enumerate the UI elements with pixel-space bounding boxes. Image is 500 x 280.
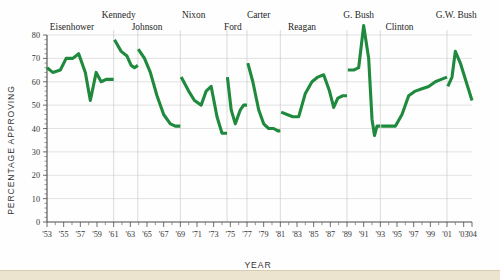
y-tick-label-50: 50 [32,101,40,110]
president-label-g-bush: G. Bush [343,10,374,20]
x-tick-label-1995: '95 [392,230,402,239]
approval-line-eisenhower [47,54,114,101]
x-tick-label-1953: '53 [42,230,52,239]
x-tick-label-1977: '77 [242,230,252,239]
x-tick-label-1999: '99 [425,230,435,239]
president-label-johnson: Johnson [132,22,163,32]
x-tick-label-2004: '04 [467,230,477,239]
x-tick-label-1973: '73 [209,230,219,239]
president-label-kennedy: Kennedy [102,10,136,20]
approval-line-carter [248,63,280,131]
x-tick-label-1991: '91 [359,230,369,239]
x-tick-label-1989: '89 [342,230,352,239]
x-tick-label-1985: '85 [309,230,319,239]
x-tick-label-1959: '59 [92,230,102,239]
president-label-carter: Carter [247,10,271,20]
x-tick-label-1975: '75 [225,230,235,239]
y-tick-label-10: 10 [32,195,40,204]
y-axis: 01020304050607080 [32,31,47,227]
x-axis-title: YEAR [244,260,271,270]
y-tick-label-0: 0 [36,218,40,227]
x-tick-label-1961: '61 [109,230,119,239]
x-axis: '53'55'57'59'61'63'65'67'69'71'73'75'77'… [42,222,477,239]
president-label-reagan: Reagan [288,22,316,32]
x-tick-label-1993: '93 [375,230,385,239]
x-tick-label-1967: '67 [159,230,169,239]
x-tick-label-1965: '65 [142,230,152,239]
x-tick-label-1963: '63 [125,230,135,239]
president-label-g-w-bush: G.W. Bush [436,10,477,20]
y-tick-label-80: 80 [32,31,40,40]
y-tick-label-70: 70 [32,54,40,63]
x-tick-label-1971: '71 [192,230,202,239]
president-labels: EisenhowerKennedyJohnsonNixonFordCarterR… [50,10,477,32]
x-tick-label-1955: '55 [59,230,69,239]
y-tick-label-60: 60 [32,78,40,87]
approval-line-clinton [381,77,447,126]
x-tick-label-1997: '97 [409,230,419,239]
x-tick-label-1981: '81 [275,230,285,239]
approval-line-series [47,26,472,136]
president-label-nixon: Nixon [182,10,206,20]
approval-line-reagan [281,75,347,117]
president-label-ford: Ford [224,22,242,32]
x-tick-label-1983: '83 [292,230,302,239]
x-tick-label-1979: '79 [259,230,269,239]
y-tick-label-40: 40 [32,125,40,134]
gridlines [47,35,472,199]
president-label-clinton: Clinton [385,22,413,32]
approval-line-ford [227,77,247,124]
x-tick-label-1969: '69 [175,230,185,239]
page-edge-strip [0,270,500,280]
y-axis-title: PERCENTAGE APPROVING [6,85,16,215]
president-label-eisenhower: Eisenhower [50,22,95,32]
y-tick-label-20: 20 [32,171,40,180]
approval-line-kennedy [115,40,138,68]
y-tick-label-30: 30 [32,148,40,157]
x-tick-label-1957: '57 [75,230,85,239]
x-tick-label-1987: '87 [325,230,335,239]
approval-line-g-bush [348,26,381,136]
approval-line-johnson [138,49,180,126]
x-tick-label-2001: '01 [442,230,452,239]
